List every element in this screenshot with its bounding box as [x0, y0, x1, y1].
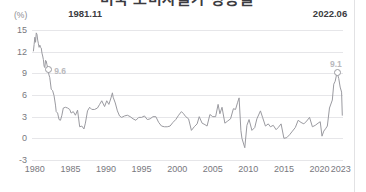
y-tick-label-0: 0	[22, 133, 27, 143]
y-tick-label-6: 6	[22, 90, 27, 100]
annotation-date-peak-1981: 1981.11	[68, 8, 102, 19]
data-point-marker-peak-2022	[334, 69, 341, 76]
x-tick-label-2020: 2020	[309, 164, 329, 174]
x-tick-label-2000: 2000	[167, 164, 187, 174]
plot-area: 15129630-3 19801985199019952000200520102…	[32, 30, 343, 160]
y-tick-label-9: 9	[22, 68, 27, 78]
annotation-date-peak-2022: 2022.06	[313, 8, 347, 19]
chart-card: 미국 소비자물가 상승률 (%) 15129630-3 198019851990…	[0, 0, 366, 192]
x-tick-label-2015: 2015	[274, 164, 294, 174]
x-tick-label-1980: 1980	[25, 164, 45, 174]
y-tick-label-15: 15	[17, 25, 27, 35]
data-point-marker-peak-1981	[45, 66, 52, 73]
gridline--3	[32, 160, 343, 161]
x-tick-label-1990: 1990	[96, 164, 116, 174]
x-tick-label-1985: 1985	[60, 164, 80, 174]
y-tick-label-3: 3	[22, 112, 27, 122]
y-axis-unit-label: (%)	[14, 10, 27, 20]
x-tick-label-2023: 2023	[331, 164, 351, 174]
chart-title: 미국 소비자물가 상승률	[0, 0, 354, 8]
annotation-value-peak-1981: 9.6	[54, 66, 66, 76]
x-tick-label-2010: 2010	[238, 164, 258, 174]
x-tick-label-2005: 2005	[203, 164, 223, 174]
annotation-value-peak-2022: 9.1	[330, 59, 342, 69]
line-series	[32, 30, 343, 160]
card-right-edge	[354, 0, 366, 192]
y-tick-label-12: 12	[17, 47, 27, 57]
x-tick-label-1995: 1995	[132, 164, 152, 174]
